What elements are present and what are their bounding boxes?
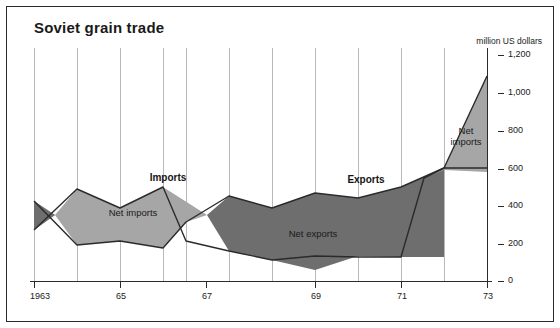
net-exports-area-label: Net exports [289,228,338,239]
xtick-label-1963: 1963 [30,291,50,301]
net-imports-area-label: Net imports [109,207,158,218]
xtick-label-73: 73 [483,291,493,301]
net-imports-right-label-line2: imports [450,136,481,147]
xtick-label-67: 67 [202,291,212,301]
xtick-label-69: 69 [311,291,321,301]
plot-area [0,0,560,328]
x-tick-marks [35,281,488,288]
xtick-label-65: 65 [116,291,126,301]
xtick-label-71: 71 [397,291,407,301]
ytick-label-0: 0 [508,275,513,285]
ytick-label-800: 800 [508,125,523,135]
exports-series-label: Exports [347,174,384,185]
ytick-label-400: 400 [508,200,523,210]
y-tick-marks [498,56,504,282]
net-imports-late-fill [424,76,487,178]
ytick-label-200: 200 [508,238,523,248]
net-imports-right-label-line1: Net [459,125,474,136]
ytick-label-600: 600 [508,163,523,173]
imports-series-label: Imports [150,172,187,183]
chart-figure: Soviet grain trade million US dollars [0,0,560,328]
ytick-label-1200: 1,200 [508,49,531,59]
ytick-label-1000: 1,000 [508,87,531,97]
